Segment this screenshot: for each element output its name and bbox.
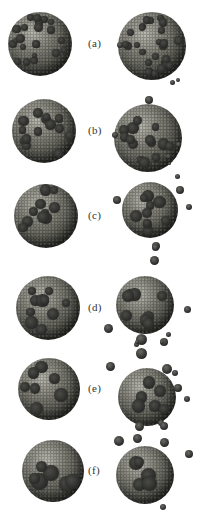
surface-patch	[21, 24, 28, 31]
surface-patch	[20, 44, 26, 50]
surface-patch	[62, 299, 70, 307]
surface-patch	[122, 41, 129, 48]
surface-patch	[52, 49, 60, 57]
figure-panel: (a)	[0, 0, 202, 82]
surface-patch	[47, 308, 59, 320]
figure-panel: (d)	[0, 248, 202, 344]
surface-patch	[133, 116, 142, 125]
surface-patch	[18, 116, 29, 127]
surface-patch	[23, 58, 30, 65]
fragment	[160, 504, 166, 510]
surface-patch	[126, 135, 135, 144]
panel-label: (f)	[88, 464, 100, 476]
surface-patch	[18, 223, 27, 232]
figure-panel: (f)	[0, 424, 202, 512]
panel-label: (d)	[88, 301, 102, 313]
surface-patch	[35, 199, 46, 210]
surface-patch	[139, 49, 146, 56]
fragment	[104, 324, 113, 333]
fragment	[166, 154, 171, 159]
surface-patch	[159, 404, 169, 414]
surface-patch	[55, 124, 64, 133]
surface-patch	[152, 53, 159, 60]
left-sphere	[8, 12, 72, 76]
right-sphere	[118, 12, 186, 80]
surface-patch	[127, 29, 134, 36]
surface-patch	[130, 210, 142, 222]
surface-patch	[158, 27, 165, 34]
fragment	[166, 332, 171, 337]
surface-patch	[143, 318, 155, 330]
surface-patch	[152, 153, 161, 162]
surface-patch	[143, 376, 155, 388]
left-sphere	[16, 276, 80, 340]
surface-patch	[157, 64, 166, 73]
fragment	[113, 196, 121, 204]
surface-patch	[160, 39, 169, 48]
surface-patch	[28, 367, 40, 379]
fragment	[152, 244, 159, 251]
fragment	[175, 174, 180, 179]
surface-patch	[49, 373, 61, 385]
surface-patch	[134, 457, 144, 467]
surface-patch	[30, 402, 43, 415]
surface-patch	[12, 25, 20, 33]
fragment	[160, 340, 164, 344]
surface-patch	[36, 461, 47, 472]
left-sphere	[14, 184, 78, 248]
surface-patch	[34, 127, 42, 135]
surface-patch	[34, 23, 43, 32]
surface-patch	[33, 108, 43, 118]
surface-patch	[166, 62, 173, 69]
fragment	[162, 364, 172, 374]
surface-patch	[159, 18, 167, 26]
surface-patch	[161, 216, 170, 225]
figure-panel: (e)	[0, 344, 202, 424]
panel-label: (e)	[88, 382, 101, 394]
surface-patch	[132, 399, 146, 413]
figure: (a)(b)(c)(d)(e)(f)	[0, 0, 202, 512]
fragment	[160, 438, 169, 447]
left-sphere	[18, 358, 80, 420]
fragment	[172, 370, 178, 376]
surface-patch	[157, 291, 166, 300]
surface-patch	[139, 25, 145, 31]
right-sphere	[116, 446, 174, 504]
surface-patch	[32, 40, 40, 48]
fragment	[174, 384, 182, 392]
right-sphere	[118, 368, 176, 426]
panel-label: (c)	[88, 209, 101, 221]
surface-patch	[43, 113, 50, 120]
left-sphere	[12, 99, 76, 163]
fragment	[186, 204, 192, 210]
fragment	[170, 80, 175, 85]
surface-patch	[54, 149, 63, 158]
surface-patch	[47, 26, 55, 34]
surface-patch	[142, 476, 157, 491]
surface-patch	[26, 308, 34, 316]
left-sphere	[22, 440, 84, 502]
surface-patch	[165, 142, 173, 150]
surface-patch	[55, 114, 63, 122]
surface-patch	[121, 310, 132, 321]
surface-patch	[154, 385, 166, 397]
surface-patch	[48, 19, 54, 25]
surface-patch	[30, 383, 41, 394]
right-sphere	[116, 276, 174, 334]
surface-patch	[50, 186, 58, 194]
surface-patch	[174, 36, 183, 45]
surface-patch	[49, 202, 60, 213]
fragment	[185, 450, 193, 458]
surface-patch	[145, 59, 152, 66]
fragment	[176, 186, 184, 194]
surface-patch	[45, 287, 53, 295]
fragment	[176, 142, 181, 147]
surface-patch	[33, 14, 41, 22]
surface-patch	[61, 47, 67, 53]
fragment	[184, 396, 190, 402]
surface-patch	[145, 135, 156, 146]
surface-patch	[65, 474, 80, 489]
surface-patch	[54, 388, 68, 402]
fragment	[133, 434, 142, 443]
fragment	[150, 256, 159, 265]
